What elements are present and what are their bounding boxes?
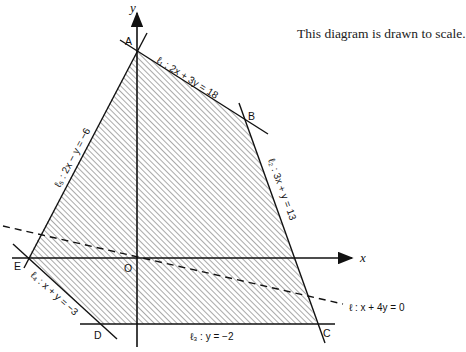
x-axis-label: x <box>359 250 366 265</box>
point-a-label: A <box>125 35 132 47</box>
point-d-label: D <box>94 329 102 341</box>
line-l-objective-label: ℓ : x + 4y = 0 <box>349 302 405 313</box>
y-axis-label: y <box>128 0 136 15</box>
feasible-region <box>28 51 317 324</box>
point-c-label: C <box>323 327 331 339</box>
origin-label: O <box>124 262 132 274</box>
point-e-label: E <box>14 260 21 272</box>
line-l3-label: ℓ₃ : y = −2 <box>190 331 234 342</box>
point-b-label: B <box>248 110 255 122</box>
